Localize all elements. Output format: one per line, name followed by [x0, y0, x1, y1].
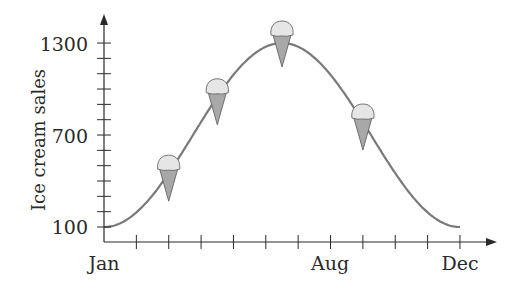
x-tick-label-jan: Jan [86, 252, 119, 274]
y-axis-title: Ice cream sales [28, 69, 49, 211]
y-tick-label-700: 700 [52, 125, 88, 147]
ice-cream-cone-icon [352, 104, 374, 150]
y-axis-arrow-icon [100, 14, 108, 25]
x-tick-label-aug: Aug [310, 252, 349, 274]
ice-cream-sales-chart: 1300 700 100 Jan Aug Dec Ice cream sales [0, 0, 510, 295]
y-tick-label-1300: 1300 [40, 33, 88, 55]
chart-canvas: 1300 700 100 Jan Aug Dec Ice cream sales [0, 0, 510, 295]
y-tick-label-100: 100 [52, 216, 88, 238]
ice-cream-cone-icon [206, 79, 228, 125]
sales-curve-line [104, 43, 460, 227]
x-axis [104, 235, 497, 249]
ice-cream-cone-markers [158, 21, 375, 201]
ice-cream-cone-icon [158, 155, 180, 201]
x-axis-arrow-icon [486, 238, 497, 246]
x-tick-label-dec: Dec [441, 252, 478, 274]
y-axis [97, 14, 111, 242]
